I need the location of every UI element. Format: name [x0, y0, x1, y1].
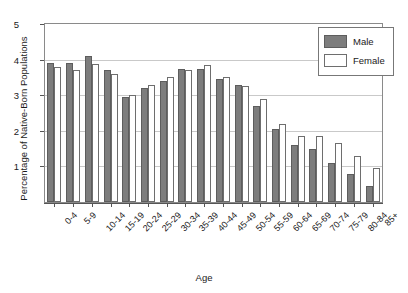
bar-group [101, 24, 120, 202]
bar-female[interactable] [223, 77, 230, 202]
legend-item-male: Male [324, 32, 388, 51]
x-tick-mark [148, 203, 149, 207]
bar-male[interactable] [291, 145, 298, 202]
x-tick-label: 25-29 [160, 210, 183, 233]
bar-female[interactable] [260, 99, 267, 202]
y-tick-mark [40, 60, 44, 61]
bar-female[interactable] [129, 95, 136, 202]
bar-group [120, 24, 139, 202]
bar-female[interactable] [54, 67, 61, 202]
bar-group [64, 24, 83, 202]
bar-male[interactable] [122, 97, 129, 202]
x-tick-label: 70-74 [328, 210, 351, 233]
x-tick-label: 5-9 [82, 210, 98, 226]
x-tick-mark [54, 203, 55, 207]
x-tick-mark [354, 203, 355, 207]
x-tick-label: 10-14 [104, 210, 127, 233]
y-tick-label: 4 [0, 54, 19, 65]
x-tick-mark [335, 203, 336, 207]
y-tick-mark [40, 131, 44, 132]
x-tick-mark [373, 203, 374, 207]
x-tick-label: 55-59 [272, 210, 295, 233]
bar-male[interactable] [235, 85, 242, 202]
y-tick-label: 5 [0, 19, 19, 30]
x-tick-label: 35-39 [197, 210, 220, 233]
x-tick-mark [92, 203, 93, 207]
bar-female[interactable] [373, 168, 380, 202]
x-tick-mark [298, 203, 299, 207]
x-tick-mark [242, 203, 243, 207]
bar-female[interactable] [204, 65, 211, 202]
bar-female[interactable] [316, 136, 323, 202]
bar-female[interactable] [185, 70, 192, 202]
bar-male[interactable] [47, 63, 54, 202]
bar-male[interactable] [178, 69, 185, 203]
x-tick-label: 45-49 [235, 210, 258, 233]
x-tick-mark [167, 203, 168, 207]
x-tick-mark [204, 203, 205, 207]
bar-female[interactable] [92, 64, 99, 202]
bar-male[interactable] [160, 81, 167, 202]
bar-group [45, 24, 64, 202]
x-tick-label: 30-34 [178, 210, 201, 233]
x-tick-mark [279, 203, 280, 207]
bar-male[interactable] [141, 88, 148, 202]
bar-female[interactable] [148, 85, 155, 202]
bar-group [139, 24, 158, 202]
bar-male[interactable] [366, 186, 373, 202]
bar-male[interactable] [347, 174, 354, 202]
x-tick-mark [73, 203, 74, 207]
bar-male[interactable] [104, 70, 111, 202]
x-tick-label: 65-69 [309, 210, 332, 233]
legend-label-female: Female [353, 55, 385, 66]
bar-group [288, 24, 307, 202]
bar-female[interactable] [167, 77, 174, 202]
x-axis-line [44, 203, 383, 204]
bar-male[interactable] [216, 79, 223, 202]
bar-male[interactable] [85, 56, 92, 202]
bar-male[interactable] [328, 163, 335, 202]
x-tick-label: 0-4 [63, 210, 79, 226]
x-tick-mark [129, 203, 130, 207]
bar-female[interactable] [335, 143, 342, 202]
y-tick-label: 3 [0, 90, 19, 101]
x-tick-label: 40-44 [216, 210, 239, 233]
bar-female[interactable] [111, 74, 118, 202]
bar-group [213, 24, 232, 202]
x-tick-mark [111, 203, 112, 207]
x-tick-mark [316, 203, 317, 207]
bar-group [157, 24, 176, 202]
x-tick-label: 20-24 [141, 210, 164, 233]
legend-swatch-male [324, 35, 347, 48]
x-tick-label: 75-79 [347, 210, 370, 233]
y-tick-mark [40, 24, 44, 25]
bar-female[interactable] [279, 124, 286, 202]
bar-female[interactable] [298, 136, 305, 202]
chart-figure: Percentage of Native-Born Populations 12… [0, 0, 408, 293]
bar-male[interactable] [272, 129, 279, 202]
bar-male[interactable] [253, 106, 260, 202]
y-tick-mark [40, 166, 44, 167]
x-axis-title: Age [0, 272, 408, 283]
x-tick-mark [260, 203, 261, 207]
bar-female[interactable] [354, 156, 361, 202]
bar-male[interactable] [309, 149, 316, 202]
x-tick-label: 50-54 [253, 210, 276, 233]
y-axis-title: Percentage of Native-Born Populations [18, 19, 29, 219]
x-tick-mark [185, 203, 186, 207]
bar-female[interactable] [242, 86, 249, 202]
x-tick-label: 60-64 [291, 210, 314, 233]
bar-female[interactable] [73, 70, 80, 202]
x-tick-label: 15-19 [122, 210, 145, 233]
chart-legend: Male Female [318, 27, 394, 76]
bar-group [195, 24, 214, 202]
y-tick-label: 2 [0, 125, 19, 136]
bar-male[interactable] [197, 69, 204, 203]
bar-group [232, 24, 251, 202]
x-tick-mark [223, 203, 224, 207]
bar-group [82, 24, 101, 202]
bar-group [270, 24, 289, 202]
y-tick-label: 1 [0, 161, 19, 172]
legend-item-female: Female [324, 51, 388, 70]
bar-male[interactable] [66, 63, 73, 202]
